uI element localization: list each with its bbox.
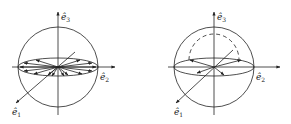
e1-axis: [16, 52, 75, 103]
e1-label: ê1: [174, 107, 183, 118]
right-sphere-diagram: ê3 ê2 ê1: [168, 12, 280, 118]
e3-label: ê3: [217, 12, 226, 23]
e1-label: ê1: [12, 107, 21, 118]
radial-arrows: [190, 60, 241, 75]
e3-label: ê3: [61, 12, 70, 23]
e2-label: ê2: [100, 72, 109, 83]
e2-label: ê2: [256, 72, 265, 83]
left-sphere-diagram: ê3 ê2 ê1: [12, 12, 115, 118]
figure: ê3 ê2 ê1 ê3 ê2 ê1: [0, 0, 291, 124]
